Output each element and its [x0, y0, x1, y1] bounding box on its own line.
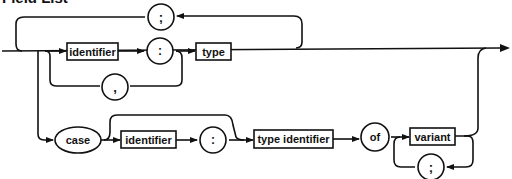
svg-text:variant: variant: [414, 131, 450, 143]
exit-arrow-icon: [500, 44, 510, 52]
comma-separator: ,: [102, 74, 128, 100]
variant-node: variant: [410, 128, 455, 145]
svg-text:,: ,: [113, 80, 117, 95]
case-colon-node: :: [200, 127, 226, 153]
colon-node: :: [147, 38, 173, 64]
svg-text:type: type: [202, 46, 225, 58]
svg-text:type identifier: type identifier: [257, 133, 330, 145]
syntax-diagram: ; identifier : type , case identifier : …: [0, 0, 512, 179]
of-keyword-node: of: [361, 123, 389, 151]
svg-text::: :: [211, 133, 215, 147]
svg-text::: :: [158, 44, 162, 58]
semicolon-separator-bottom: ;: [418, 154, 444, 179]
type-identifier-node: type identifier: [254, 130, 333, 148]
svg-text:case: case: [66, 134, 90, 146]
svg-text:identifier: identifier: [69, 46, 116, 58]
type-node: type: [196, 43, 231, 60]
semicolon-separator-top: ;: [148, 4, 174, 30]
svg-text:;: ;: [429, 160, 433, 175]
svg-text:;: ;: [159, 10, 163, 25]
svg-text:identifier: identifier: [125, 134, 172, 146]
svg-text:of: of: [370, 131, 381, 143]
case-exit: [464, 48, 486, 136]
case-identifier-node: identifier: [121, 131, 176, 148]
case-keyword-node: case: [55, 127, 101, 153]
identifier-node: identifier: [67, 43, 118, 60]
